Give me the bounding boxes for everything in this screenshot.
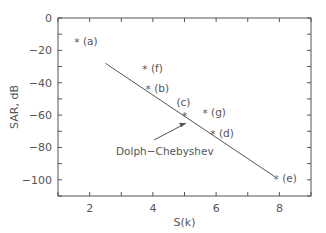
- x-tick-label: 8: [276, 202, 283, 215]
- star-marker-icon: *: [74, 36, 79, 48]
- point-label: (g): [211, 106, 226, 118]
- x-axis-label: S(k): [174, 216, 196, 229]
- point-label: (a): [83, 35, 98, 47]
- point-label: (e): [282, 172, 297, 184]
- x-tick-label: 6: [213, 202, 220, 215]
- annotation-label: Dolph−Chebyshev: [116, 145, 214, 157]
- star-marker-icon: *: [202, 107, 207, 119]
- y-axis-label: SAR, dB: [8, 85, 21, 129]
- star-marker-icon: *: [210, 128, 215, 140]
- point-label: (b): [154, 82, 169, 94]
- y-tick-label: −80: [29, 141, 52, 154]
- y-tick-label: −100: [22, 174, 52, 187]
- star-marker-icon: *: [142, 63, 147, 75]
- chart: 24680−20−40−60−80−100S(k)SAR, dB*(a)*(f)…: [0, 0, 326, 233]
- star-marker-icon: *: [146, 83, 151, 95]
- point-label: (c): [177, 96, 191, 108]
- point-label: (f): [151, 62, 163, 74]
- y-tick-label: −60: [29, 109, 52, 122]
- star-marker-icon: *: [274, 173, 279, 185]
- y-tick-label: −40: [29, 77, 52, 90]
- x-tick-label: 2: [86, 202, 93, 215]
- dolph-chebyshev-line: [105, 63, 274, 176]
- y-tick-label: 0: [45, 12, 52, 25]
- x-tick-label: 4: [149, 202, 156, 215]
- point-label: (d): [219, 127, 234, 139]
- y-tick-label: −20: [29, 44, 52, 57]
- star-marker-icon: *: [182, 110, 187, 122]
